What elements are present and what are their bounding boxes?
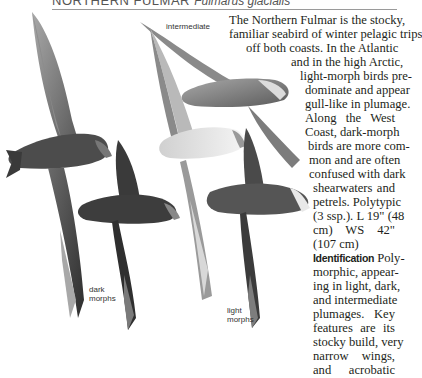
text-line: (107 cm) xyxy=(313,238,359,252)
text-line: Along the West xyxy=(305,112,395,126)
text-line: features are its xyxy=(313,322,395,336)
text-line: gull-like in plumage. xyxy=(305,98,395,112)
text-line: Coast, dark-morph xyxy=(305,126,395,140)
label-light-line-2: morphs xyxy=(227,315,254,324)
text-line: cm) WS 42" xyxy=(313,224,395,238)
dark-morph-bird-1 xyxy=(6,12,112,318)
label-light-line-1: light xyxy=(227,306,254,315)
text-line: narrow wings, xyxy=(313,350,395,364)
text-line: plumages. Key xyxy=(313,308,395,322)
text-line: and intermediate xyxy=(313,294,395,308)
identification-line: Identification Poly- xyxy=(313,252,395,266)
label-dark-line-1: dark xyxy=(89,285,116,294)
text-line: petrels. Polytypic xyxy=(313,196,395,210)
species-scientific-name: Fulmarus glacialis xyxy=(194,0,290,8)
label-intermediate: intermediate xyxy=(166,22,210,31)
text-line: confused with dark xyxy=(309,168,395,182)
text-line: The Northern Fulmar is the stocky, xyxy=(229,14,395,28)
identification-heading: Identification xyxy=(313,252,374,264)
fulmar-illustration xyxy=(0,10,320,362)
text-line: light-morph birds pre- xyxy=(300,70,395,84)
text-line: mon and are often xyxy=(309,154,395,168)
text-line: birds are more com- xyxy=(308,140,395,154)
text-line: off both coasts. In the Atlantic xyxy=(246,42,395,56)
page-header: NORTHERN FULMAR Fulmarus glacialis xyxy=(52,0,290,8)
text-line: stocky build, very xyxy=(313,336,395,350)
text-line: shearwaters and xyxy=(313,182,395,196)
text-line: and in the high Arctic, xyxy=(291,56,395,70)
text-line: ing in light, dark, xyxy=(313,280,395,294)
label-dark-line-2: morphs xyxy=(89,294,116,303)
text-line: and acrobatic xyxy=(313,364,395,378)
text-line: dominate and appear xyxy=(305,84,395,98)
text-line: (3 ssp.). L 19" (48 xyxy=(313,210,395,224)
label-dark-morphs: dark morphs xyxy=(89,285,116,303)
text-line: familiar seabird of winter pelagic trips xyxy=(229,28,395,42)
species-common-name: NORTHERN FULMAR xyxy=(52,0,190,8)
text-line: Poly- xyxy=(377,251,404,265)
label-light-morphs: light morphs xyxy=(227,306,254,324)
text-line: morphic, appear- xyxy=(313,266,395,280)
